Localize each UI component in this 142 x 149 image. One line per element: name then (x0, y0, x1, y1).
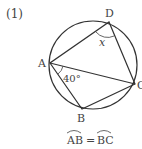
label-A: A (37, 57, 47, 70)
angle-label-x: x (99, 36, 106, 49)
arc-equality-condition: AB = BC (66, 131, 114, 148)
arc-AB-label: AB (66, 134, 83, 147)
arc-BC-label: BC (97, 134, 114, 147)
arc-symbol-AB (67, 131, 81, 134)
quadrilateral-ABCD (50, 22, 135, 109)
inscribed-quadrilateral-diagram: (1) D A C B 40° x AB = BC (0, 0, 142, 149)
equals-sign: = (86, 134, 95, 147)
label-D: D (105, 7, 114, 20)
arc-symbol-BC (97, 131, 111, 134)
label-C: C (137, 79, 142, 92)
circumcircle (49, 21, 137, 109)
angle-label-40: 40° (63, 73, 81, 84)
problem-number: (1) (6, 7, 23, 21)
label-B: B (77, 112, 85, 125)
